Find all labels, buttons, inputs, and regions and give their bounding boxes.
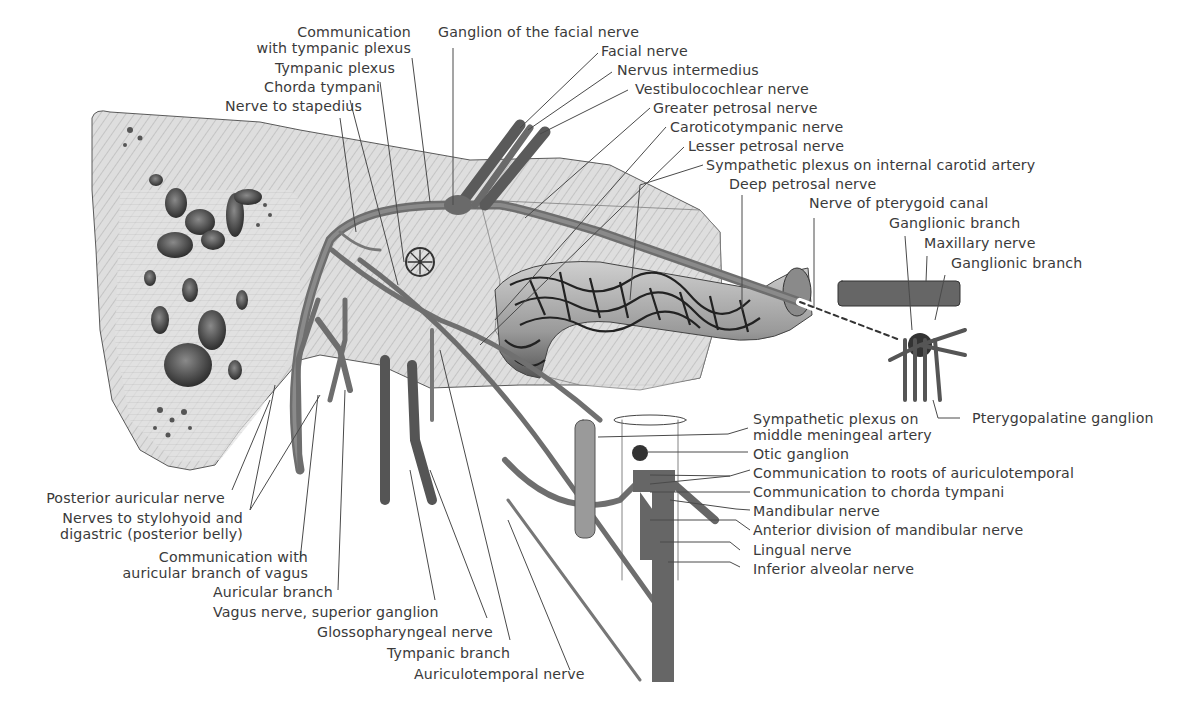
- label-glossopharyngeal: Glossopharyngeal nerve: [317, 624, 493, 640]
- label-anterior-division: Anterior division of mandibular nerve: [753, 522, 1023, 538]
- anatomical-illustration: [0, 0, 1179, 701]
- label-comm-auriculotemporal: Communication to roots of auriculotempor…: [753, 465, 1074, 481]
- label-sympathetic-ica: Sympathetic plexus on internal carotid a…: [706, 157, 1035, 173]
- label-pterygoid-canal: Nerve of pterygoid canal: [809, 195, 988, 211]
- petrous-bone: [480, 200, 812, 390]
- label-maxillary-nerve: Maxillary nerve: [924, 235, 1036, 251]
- label-otic-ganglion: Otic ganglion: [753, 446, 849, 462]
- label-pterygopalatine-ganglion: Pterygopalatine ganglion: [972, 410, 1154, 426]
- label-mandibular-nerve: Mandibular nerve: [753, 503, 880, 519]
- label-auriculotemporal: Auriculotemporal nerve: [414, 666, 585, 682]
- label-vestibulocochlear: Vestibulocochlear nerve: [635, 81, 809, 97]
- label-ganglionic-branch-1: Ganglionic branch: [889, 215, 1020, 231]
- label-nerve-to-stapedius: Nerve to stapedius: [190, 98, 362, 114]
- label-greater-petrosal: Greater petrosal nerve: [653, 100, 818, 116]
- label-ganglionic-branch-2: Ganglionic branch: [951, 255, 1082, 271]
- label-vagus-superior: Vagus nerve, superior ganglion: [213, 604, 439, 620]
- label-sympathetic-mma: Sympathetic plexus on middle meningeal a…: [753, 411, 932, 443]
- label-auricular-branch: Auricular branch: [213, 584, 333, 600]
- label-nervus-intermedius: Nervus intermedius: [617, 62, 759, 78]
- label-deep-petrosal: Deep petrosal nerve: [729, 176, 876, 192]
- label-caroticotympanic: Caroticotympanic nerve: [670, 119, 844, 135]
- label-tympanic-plexus: Tympanic plexus: [230, 60, 395, 76]
- label-comm-chorda: Communication to chorda tympani: [753, 484, 1004, 500]
- label-inferior-alveolar: Inferior alveolar nerve: [753, 561, 914, 577]
- label-lesser-petrosal: Lesser petrosal nerve: [688, 138, 844, 154]
- label-posterior-auricular: Posterior auricular nerve: [10, 490, 225, 506]
- label-comm-auricular-vagus: Communication with auricular branch of v…: [90, 549, 308, 581]
- label-facial-nerve: Facial nerve: [601, 43, 688, 59]
- label-communication-tympanic: Communication with tympanic plexus: [240, 24, 411, 56]
- label-stylohyoid-digastric: Nerves to stylohyoid and digastric (post…: [20, 510, 243, 542]
- label-lingual-nerve: Lingual nerve: [753, 542, 852, 558]
- label-chorda-tympani: Chorda tympani: [220, 79, 380, 95]
- label-ganglion-facial: Ganglion of the facial nerve: [438, 24, 639, 40]
- label-tympanic-branch: Tympanic branch: [387, 645, 510, 661]
